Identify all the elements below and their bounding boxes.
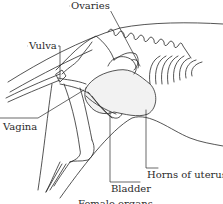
anatomy-diagram: Ovaries Vulva Vagina Bladder Horns of ut… <box>0 0 223 204</box>
leg-outline <box>38 84 52 190</box>
rib <box>149 56 160 84</box>
leader-horns <box>146 110 158 168</box>
figure-caption: Female organs <box>78 198 153 204</box>
spine <box>108 29 191 58</box>
vagina-tube <box>58 78 86 84</box>
label-bladder: Bladder <box>110 184 152 194</box>
label-vulva: Vulva <box>28 41 58 51</box>
uterus <box>85 70 156 116</box>
label-vagina: Vagina <box>2 122 38 132</box>
label-ovaries: Ovaries <box>70 1 111 11</box>
label-horns-of-uterus: Horns of uterus <box>146 170 223 180</box>
leader-vagina <box>0 90 84 118</box>
